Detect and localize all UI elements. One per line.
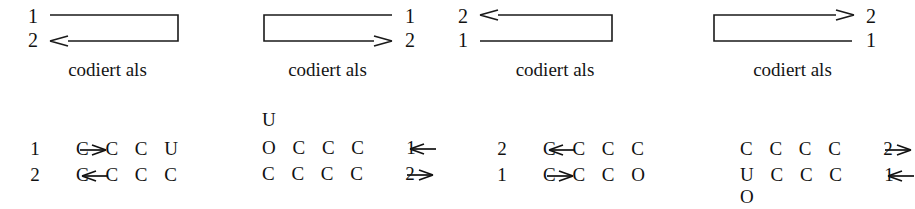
code-row-index: 1 — [28, 139, 42, 158]
code-row-index: 2 — [403, 164, 417, 183]
panel-3-arrowhead-left — [480, 10, 498, 20]
panel-1-arrowhead-left — [50, 36, 68, 46]
code-row-bases: O C C C — [262, 138, 370, 157]
panel-3-bottom-strand-label: 1 — [458, 30, 468, 50]
code-row-index: 1 — [882, 165, 896, 184]
code-row-index: 1 — [404, 138, 418, 157]
code-row-bases: C C C O — [543, 165, 651, 184]
panel-4-bottom-strand-label: 1 — [866, 30, 876, 50]
code-row-bases: U C C C — [740, 165, 848, 184]
panel-1-bottom-strand-label: 2 — [28, 30, 38, 50]
panel-2-arrowhead-right — [374, 36, 392, 46]
code-row: U C C C 1 — [740, 161, 896, 187]
panel-4-top-strand-label: 2 — [866, 6, 876, 26]
code-row-bases: C C C U — [76, 139, 184, 158]
code-block-1: 1 C C C U 2 C C C C — [28, 135, 184, 187]
diagram-panel-1: 1 2 codiert als — [0, 0, 215, 92]
code-row-index: 2 — [495, 139, 509, 158]
panel-1-caption: codiert als — [0, 60, 215, 79]
panel-2-bottom-strand-label: 2 — [405, 30, 415, 50]
code-row-bases: C C C C — [76, 165, 183, 184]
code-row-bases: C C C C — [740, 139, 847, 158]
code-row-bases: C C C C — [543, 139, 650, 158]
panel-4-caption: codiert als — [670, 60, 915, 79]
diagram-panel-4: 2 1 codiert als — [670, 0, 915, 92]
panel-3-top-strand-label: 2 — [458, 6, 468, 26]
code-row-index: 1 — [495, 165, 509, 184]
arrow-right-icon — [509, 146, 543, 203]
panel-3-hairpin-shape — [478, 8, 618, 48]
code-row: 2 C C C C — [28, 161, 184, 187]
panel-3-caption: codiert als — [440, 60, 670, 79]
arrow-left-icon — [42, 146, 76, 203]
strand-coding-figure: 1 2 codiert als 1 2 codiert als 2 1 — [0, 0, 915, 209]
code-block-3: 2 C C C C 1 C C C O — [495, 135, 651, 187]
code-row: 1 C C C O — [495, 161, 651, 187]
panel-4-arrowhead-right — [836, 10, 854, 20]
panel-1-hairpin-shape — [48, 8, 184, 48]
panel-2-hairpin-shape — [258, 8, 398, 48]
diagram-panel-3: 2 1 codiert als — [440, 0, 670, 92]
code-row: C C C C 2 — [262, 160, 418, 186]
code-row-index: 2 — [28, 165, 42, 184]
panel-2-caption: codiert als — [215, 60, 440, 79]
panel-2-top-strand-label: 1 — [405, 6, 415, 26]
panel-1-top-strand-label: 1 — [28, 6, 38, 26]
code-row-index: 2 — [881, 139, 895, 158]
arrow-left-icon — [848, 146, 882, 203]
diagram-panel-2: 1 2 codiert als — [215, 0, 440, 92]
code-block-4: C C C C 2 U C C C 1 O — [740, 135, 896, 209]
code-block-2: U O C C C 1 C C C C 2 — [262, 110, 418, 186]
arrow-right-icon — [369, 145, 403, 202]
panel-4-hairpin-shape — [708, 8, 858, 48]
code-row-bases: C C C C — [262, 164, 369, 183]
